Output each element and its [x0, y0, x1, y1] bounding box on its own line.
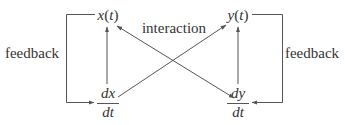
node-dx-dt: dx dt	[97, 85, 119, 120]
node-y-of-t: y(t)	[226, 7, 249, 24]
dx-numerator: dx	[101, 85, 116, 101]
feedback-loop-right	[252, 15, 283, 103]
node-dy-dt: dy dt	[227, 85, 249, 120]
feedback-interaction-diagram: x(t) y(t) dx dt dy dt interaction feedba…	[0, 0, 345, 125]
dx-denominator: dt	[102, 104, 115, 120]
interaction-arrow-xt-dydt	[117, 26, 234, 98]
feedback-label-left: feedback	[5, 45, 60, 61]
feedback-loop-left	[67, 15, 96, 103]
interaction-label: interaction	[142, 20, 207, 36]
node-x-of-t: x(t)	[97, 7, 119, 24]
dy-numerator: dy	[231, 85, 246, 101]
dy-denominator: dt	[232, 104, 245, 120]
feedback-label-right: feedback	[285, 45, 340, 61]
